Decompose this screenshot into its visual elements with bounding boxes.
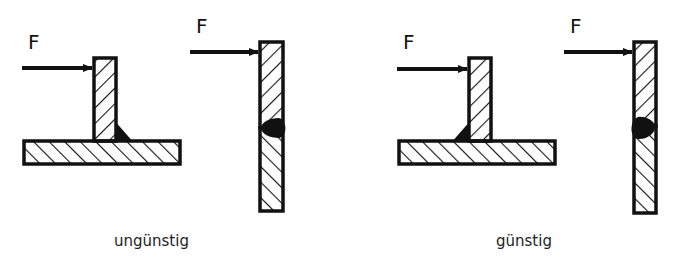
- vertical-plate: [469, 58, 491, 141]
- vertical-plate: [94, 58, 116, 141]
- base-plate: [24, 141, 180, 164]
- lower-plate: [260, 128, 283, 211]
- lower-plate: [634, 126, 656, 213]
- weld-diagram: [0, 0, 678, 271]
- figure-t-joint-unfavorable: [22, 58, 180, 164]
- fillet-weld: [116, 124, 131, 141]
- force-label: F: [403, 30, 415, 54]
- figure-t-joint-favorable: [397, 58, 555, 164]
- caption-favorable: günstig: [496, 232, 552, 250]
- figure-butt-joint-favorable: [564, 42, 656, 213]
- force-label: F: [196, 14, 208, 38]
- figure-butt-joint-unfavorable: [190, 42, 285, 211]
- upper-plate: [260, 42, 283, 128]
- upper-plate: [634, 42, 656, 126]
- caption-unfavorable: ungünstig: [114, 232, 189, 250]
- fillet-weld: [454, 124, 469, 141]
- force-label: F: [28, 30, 40, 54]
- base-plate: [399, 141, 555, 164]
- force-label: F: [570, 14, 582, 38]
